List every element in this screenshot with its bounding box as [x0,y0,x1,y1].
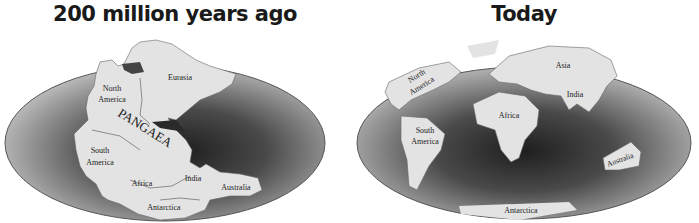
label-india: India [185,174,202,183]
label-antarctica: Antarctica [504,206,538,215]
label-africa: Africa [499,111,520,120]
label-south-america-2: America [411,137,439,146]
label-asia: Asia [556,61,571,70]
label-south-america-1: South [91,146,110,155]
label-north-america-1: North [103,84,122,93]
label-eurasia: Eurasia [168,73,192,82]
pangaea-panel: 200 million years ago Eurasia North Amer… [0,0,350,223]
label-south-america-2: America [86,158,114,167]
today-panel: Today North America Asia India Africa So… [349,0,699,223]
label-south-america-1: South [416,126,435,135]
greenland [467,40,499,58]
label-india: India [567,90,584,99]
label-antarctica: Antarctica [147,203,181,212]
label-north-america-2: America [98,95,126,104]
label-africa: Africa [132,179,153,188]
pangaea-map: Eurasia North America PANGAEA South Amer… [0,0,350,223]
label-australia: Australia [221,183,251,192]
today-map: North America Asia India Africa South Am… [349,0,699,223]
